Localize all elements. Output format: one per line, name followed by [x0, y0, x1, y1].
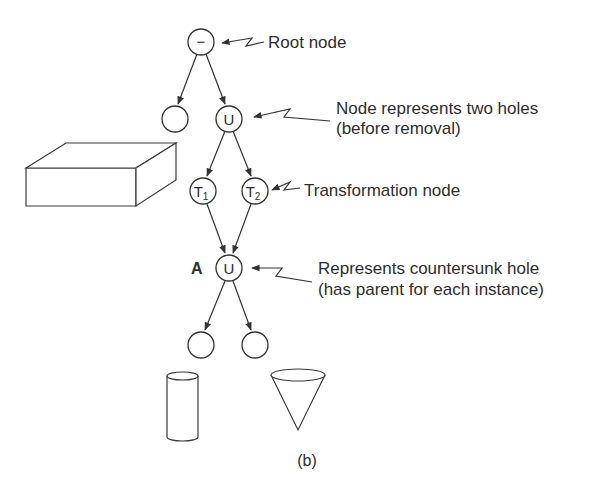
root-node: −	[188, 29, 214, 55]
union-annotation-line2: (before removal)	[336, 119, 461, 138]
cone-leaf-node	[242, 332, 268, 358]
edge-t2-to-union-a	[233, 204, 251, 253]
union-top-node: U	[216, 106, 242, 132]
callouts	[222, 38, 330, 282]
cylinder-primitive	[167, 372, 198, 441]
countersunk-annotation-line1: Represents countersunk hole	[318, 259, 539, 278]
union-a-symbol: U	[224, 260, 235, 277]
node-tag-a: A	[191, 260, 203, 277]
edge-union-a-to-cylinder	[205, 281, 225, 330]
edge-union-to-t1	[207, 131, 225, 176]
edge-t1-to-union-a	[207, 204, 225, 253]
edge-union-to-t2	[233, 131, 251, 176]
union-annotation-line1: Node represents two holes	[336, 99, 538, 118]
edge-root-to-union	[206, 54, 225, 104]
root-node-annotation: Root node	[268, 33, 346, 52]
union-symbol: U	[224, 111, 235, 128]
csg-tree-diagram: − U T1 T2 U A Root node Node represents …	[0, 0, 606, 481]
transformation-annotation: Transformation node	[304, 181, 460, 200]
union-callout-arrow	[254, 109, 330, 121]
t1-node: T1	[190, 178, 216, 204]
t2-symbol: T	[246, 183, 255, 200]
t1-symbol: T	[194, 183, 203, 200]
t2-subscript: 2	[255, 191, 261, 202]
edge-union-a-to-cone	[233, 281, 251, 330]
cylinder-leaf-node	[188, 332, 214, 358]
cone-primitive	[271, 369, 325, 430]
t1-subscript: 1	[203, 191, 209, 202]
countersunk-callout-arrow	[252, 268, 312, 282]
transformation-callout-arrow	[272, 182, 300, 190]
difference-symbol: −	[197, 33, 206, 50]
edge-root-to-block	[178, 54, 197, 104]
root-callout-arrow	[222, 38, 264, 46]
union-a-node: U	[216, 255, 242, 281]
t2-node: T2	[242, 178, 268, 204]
block-leaf-node	[162, 106, 188, 132]
figure-caption: (b)	[297, 452, 317, 469]
block-primitive	[26, 143, 176, 206]
countersunk-annotation-line2: (has parent for each instance)	[318, 280, 544, 299]
